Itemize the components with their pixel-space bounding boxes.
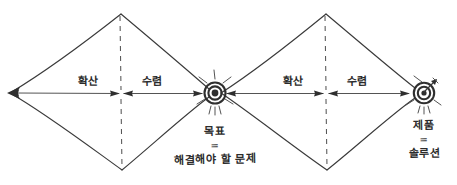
node-product-caption-line2: 솔루션	[408, 147, 440, 161]
axis-arrow-segment-2	[123, 91, 203, 97]
axis-arrow-segment-3	[226, 91, 324, 97]
bullseye-target-icon	[197, 70, 233, 115]
node-product-caption-line1: 제품	[413, 119, 434, 132]
bullseye-target-with-dart-icon	[406, 76, 441, 114]
node-goal-caption: 목표 = 해결해야 할 문제	[173, 124, 256, 168]
axis-arrow-segment-4	[328, 91, 410, 97]
diamond-1-midline	[120, 16, 122, 168]
node-goal-caption-line2: 해결해야 할 문제	[174, 152, 256, 167]
phase-label-converge-2: 수렴	[346, 75, 367, 89]
diagram-canvas: 확산 수렴 확산 수렴 목표 = 해결해야 할 문제 제품 = 솔루션	[0, 0, 457, 185]
node-goal-caption-line1: 목표	[204, 125, 225, 138]
phase-label-diverge-2: 확산	[282, 75, 303, 89]
diamond-2-midline	[325, 16, 327, 168]
phase-label-converge-1: 수렴	[141, 75, 162, 89]
node-product-caption-equals: =	[408, 133, 440, 146]
phase-label-diverge-1: 확산	[77, 75, 98, 89]
node-product-caption: 제품 = 솔루션	[408, 119, 440, 162]
axis-arrow-segment-1	[9, 90, 120, 97]
node-goal-caption-equals: =	[174, 139, 256, 153]
